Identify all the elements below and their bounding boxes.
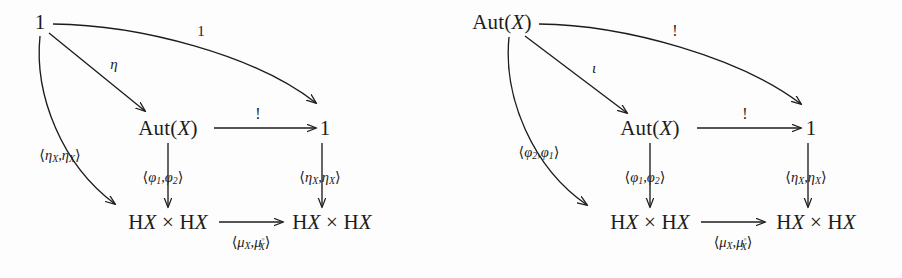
label-bottom-horizontal: ⟨μX,μ◦X⟩ [714,235,753,252]
label-curved-top-text: 1 [197,23,205,39]
node-top-left-text: 1 [35,10,46,34]
arrow-topleft-to-middle-eta [49,33,145,111]
arrow-topleft-to-middle-iota [525,36,627,113]
label-bottom-horizontal: ⟨μX,μ◦X⟩ [232,235,271,252]
label-diag-iota: ι [592,61,596,76]
label-diag-bottom-left: ⟨ηX,ηX⟩ [39,148,80,165]
node-top-left: Aut(X) [472,12,532,33]
node-top-left: 1 [35,12,46,33]
node-top-right-text: 1 [806,116,817,140]
diagram-right: Aut(X) Aut(X) 1 HX × HX HX × HX ! ι ⟨φ2,… [451,0,902,278]
label-diag-bottom-left: ⟨φ2,φ1⟩ [519,145,560,162]
label-middle-to-right-text: ! [742,105,747,122]
arrow-topleft-to-topright-curved [53,24,316,103]
diagram-left: 1 Aut(X) 1 HX × HX HX × HX 1 η ⟨ηX,ηX⟩ !… [0,0,451,278]
label-middle-to-right: ! [742,106,747,122]
label-curved-top: ! [672,23,677,39]
label-right-vertical: ⟨ηX,ηX⟩ [785,170,826,187]
arrow-topleft-to-bottomleft-curved [39,36,115,204]
diagram-left-arrows [0,0,451,278]
node-bottom-right: HX × HX [776,212,856,233]
label-curved-top-text: ! [672,22,677,39]
label-right-vertical: ⟨ηX,ηX⟩ [299,170,340,187]
node-middle: Aut(X) [138,118,198,139]
label-middle-vertical: ⟨φ1,φ2⟩ [625,170,666,187]
node-middle: Aut(X) [620,118,680,139]
arrow-topleft-to-topright-curved [539,24,801,104]
label-curved-top: 1 [197,24,205,39]
label-middle-to-right: ! [255,106,260,122]
commutative-diagram-figure: 1 Aut(X) 1 HX × HX HX × HX 1 η ⟨ηX,ηX⟩ !… [0,0,902,278]
node-bottom-right: HX × HX [292,212,372,233]
node-top-right: 1 [806,118,817,139]
arrow-topleft-to-bottomleft-curved [508,37,587,205]
label-middle-vertical: ⟨φ1,φ2⟩ [143,170,184,187]
node-bottom-left: HX × HX [610,212,690,233]
node-top-right-text: 1 [320,116,331,140]
node-top-right: 1 [320,118,331,139]
label-diag-eta: η [110,57,117,72]
label-middle-to-right-text: ! [255,105,260,122]
node-bottom-left: HX × HX [128,212,208,233]
